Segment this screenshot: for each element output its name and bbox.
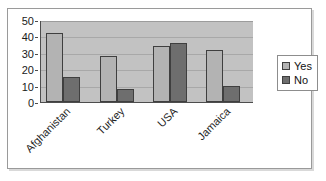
legend-label-no: No xyxy=(294,75,308,86)
bars-layer xyxy=(41,21,253,102)
y-axis-tick-mark xyxy=(35,70,38,71)
bar-jamaica-yes[interactable] xyxy=(206,50,223,102)
x-axis-label-jamaica: Jamaica xyxy=(195,105,232,142)
legend-item-yes[interactable]: Yes xyxy=(282,59,312,73)
y-axis: 50403020100 xyxy=(8,14,38,110)
bar-turkey-no[interactable] xyxy=(117,89,134,102)
legend-swatch-yes-icon xyxy=(282,62,290,70)
chart-frame: 50403020100 AfghanistanTurkeyUSAJamaica … xyxy=(7,8,312,169)
bar-usa-no[interactable] xyxy=(170,43,187,102)
x-axis-label-afghanistan: Afghanistan xyxy=(23,105,73,155)
y-axis-tick-label: 30 xyxy=(22,49,34,59)
plot-area-wrapper xyxy=(40,21,253,103)
y-axis-tick-mark xyxy=(35,103,38,104)
y-axis-tick-label: 50 xyxy=(22,16,34,26)
x-axis-label-usa: USA xyxy=(155,105,179,129)
bar-afghanistan-no[interactable] xyxy=(63,77,80,102)
bar-jamaica-no[interactable] xyxy=(223,86,240,102)
bar-afghanistan-yes[interactable] xyxy=(46,33,63,102)
plot-area xyxy=(40,21,253,103)
x-axis-category-labels: AfghanistanTurkeyUSAJamaica xyxy=(40,105,270,175)
y-axis-tick-mark xyxy=(35,21,38,22)
legend-swatch-no-icon xyxy=(282,76,290,84)
y-axis-tick-label: 40 xyxy=(22,32,34,42)
y-axis-tick-mark xyxy=(35,87,38,88)
y-axis-tick-mark xyxy=(35,37,38,38)
y-axis-tick-label: 20 xyxy=(22,65,34,75)
legend-label-yes: Yes xyxy=(294,61,312,72)
clipped-text-above-chart xyxy=(0,0,326,6)
y-axis-tick-label: 10 xyxy=(22,82,34,92)
y-axis-tick-label: 0 xyxy=(28,98,34,108)
chart-legend: Yes No xyxy=(277,55,318,91)
y-axis-tick-mark xyxy=(35,54,38,55)
legend-item-no[interactable]: No xyxy=(282,73,312,87)
bar-turkey-yes[interactable] xyxy=(100,56,117,102)
bar-usa-yes[interactable] xyxy=(153,46,170,102)
x-axis-label-turkey: Turkey xyxy=(94,105,126,137)
